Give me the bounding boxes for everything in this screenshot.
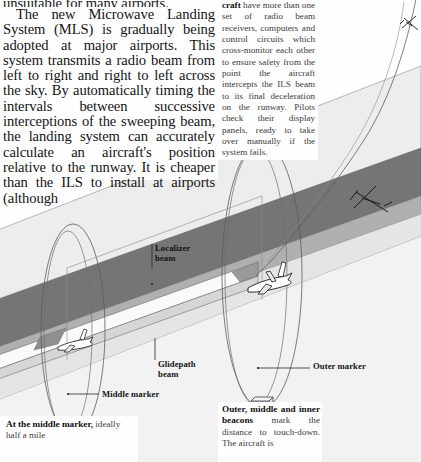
label-localizer-beam: Localizer beam <box>155 244 190 264</box>
leader-outer-marker-dot <box>257 367 259 369</box>
book-page: unsuitable for many airports. The new Mi… <box>0 0 421 462</box>
label-glidepath-line1: Glidepath <box>158 359 196 369</box>
caption-beacons: Outer, middle and inner beacons mark the… <box>222 404 320 450</box>
right-text-column: craft have more than one set of radio be… <box>222 0 315 159</box>
right-column-paragraph: craft have more than one set of radio be… <box>222 0 315 159</box>
label-localizer-line1: Localizer <box>155 243 190 253</box>
label-glidepath-beam: Glidepath beam <box>158 360 196 380</box>
right-column-lead: craft <box>222 0 241 10</box>
left-text-column: unsuitable for many airports. The new Mi… <box>3 0 215 206</box>
label-outer-marker: Outer marker <box>313 362 366 372</box>
right-column-body: have more than one set of radio beam rec… <box>222 0 315 157</box>
label-glidepath-line2: beam <box>158 369 178 379</box>
leader-localizer-dot <box>151 283 153 285</box>
caption-middle-marker: At the middle marker, ideally half a mil… <box>6 419 136 442</box>
leader-middle-marker-dot <box>67 393 69 395</box>
aircraft-high <box>400 16 418 30</box>
label-localizer-line2: beam <box>155 253 175 263</box>
left-column-body: The new Microwave Landing System (MLS) i… <box>3 7 215 206</box>
label-middle-marker: Middle marker <box>102 390 159 400</box>
caption-left-lead: At the middle marker, <box>6 419 93 429</box>
